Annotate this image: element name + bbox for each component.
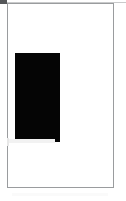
document-page[interactable] bbox=[7, 3, 114, 188]
screenshot-canvas bbox=[0, 0, 126, 201]
compression-smudge-under-block bbox=[9, 139, 55, 143]
black-content-block bbox=[15, 53, 60, 142]
compression-smudge-left-edge bbox=[7, 138, 9, 146]
bottom-haze-band bbox=[12, 193, 108, 196]
top-left-corner-stub bbox=[0, 0, 7, 4]
